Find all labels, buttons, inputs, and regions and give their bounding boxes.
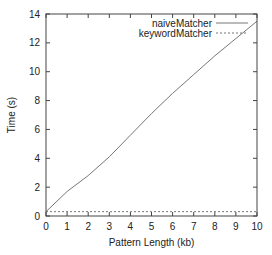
x-tick-label: 6: [170, 221, 176, 232]
x-tick-label: 7: [191, 221, 197, 232]
x-tick-label: 0: [43, 221, 49, 232]
x-tick-label: 5: [149, 221, 155, 232]
y-tick-label: 12: [29, 37, 41, 48]
axis-ticks: 01234567891002468101214: [29, 9, 263, 233]
x-tick-label: 9: [233, 221, 239, 232]
y-tick-label: 4: [34, 153, 40, 164]
series-naiveMatcher: [46, 21, 257, 211]
line-chart: 01234567891002468101214 Pattern Length (…: [0, 0, 272, 255]
x-axis-label: Pattern Length (kb): [109, 237, 195, 248]
y-tick-label: 10: [29, 66, 41, 77]
x-tick-label: 10: [251, 221, 263, 232]
data-lines: [46, 21, 257, 211]
legend: naiveMatcherkeywordMatcher: [139, 18, 248, 39]
legend-label: keywordMatcher: [139, 28, 213, 39]
y-tick-label: 2: [34, 182, 40, 193]
x-tick-label: 8: [212, 221, 218, 232]
x-tick-label: 4: [128, 221, 134, 232]
x-tick-label: 2: [85, 221, 91, 232]
y-tick-label: 6: [34, 124, 40, 135]
y-tick-label: 0: [34, 211, 40, 222]
plot-frame: [46, 14, 257, 216]
y-axis-label: Time (s): [6, 97, 17, 133]
x-tick-label: 3: [107, 221, 113, 232]
y-tick-label: 14: [29, 9, 41, 20]
x-tick-label: 1: [64, 221, 70, 232]
y-tick-label: 8: [34, 95, 40, 106]
